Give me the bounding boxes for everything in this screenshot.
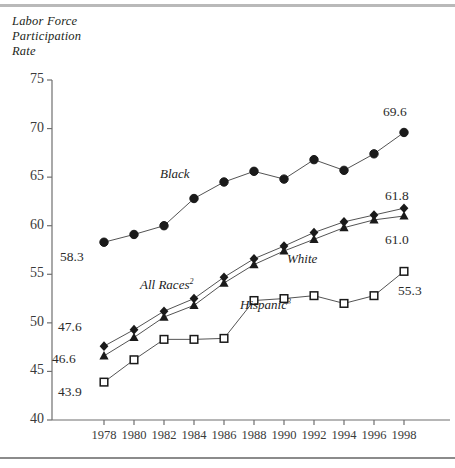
- data-point-marker: [130, 230, 138, 238]
- series-label-hispanic: Hispanic3: [240, 297, 291, 313]
- y-axis-tick-label: 75: [8, 71, 44, 87]
- data-point-marker: [160, 336, 168, 344]
- y-axis-tick-label: 70: [8, 120, 44, 136]
- y-axis-tick-label: 50: [8, 314, 44, 330]
- y-axis-tick-label: 65: [8, 168, 44, 184]
- data-point-marker: [340, 300, 348, 308]
- series-black: [100, 128, 408, 246]
- value-label-black-end: 69.6: [383, 104, 407, 120]
- value-label-hispanic-start: 43.9: [58, 384, 82, 400]
- data-point-marker: [370, 150, 378, 158]
- data-point-marker: [280, 175, 288, 183]
- data-point-marker: [400, 128, 408, 136]
- data-point-marker: [310, 155, 318, 163]
- y-axis-tick-label: 45: [8, 362, 44, 378]
- value-label-black-start: 58.3: [60, 249, 84, 265]
- value-label-white-start: 46.6: [52, 351, 76, 367]
- data-point-marker: [220, 335, 228, 343]
- series-label-all-races: All Races2: [140, 277, 193, 293]
- data-point-marker: [190, 336, 198, 344]
- x-axis-tick-label: 1998: [382, 428, 426, 443]
- data-point-marker: [399, 211, 408, 219]
- data-point-marker: [189, 301, 198, 309]
- data-point-marker: [340, 166, 348, 174]
- data-point-marker: [250, 167, 258, 175]
- data-point-marker: [190, 194, 198, 202]
- value-label-all-races-start: 47.6: [58, 319, 82, 335]
- data-point-marker: [100, 378, 108, 386]
- data-point-marker: [309, 235, 318, 243]
- chart-axes: [47, 80, 450, 425]
- data-point-marker: [100, 238, 108, 246]
- data-point-marker: [310, 292, 318, 300]
- data-point-marker: [100, 341, 109, 351]
- data-point-marker: [220, 178, 228, 186]
- data-point-marker: [130, 356, 138, 364]
- y-axis-tick-label: 55: [8, 265, 44, 281]
- value-label-white-end: 61.0: [385, 232, 409, 248]
- y-axis-tick-label: 40: [8, 411, 44, 427]
- series-label-black: Black: [160, 166, 190, 182]
- chart-series: [99, 128, 408, 386]
- value-label-hispanic-end: 55.3: [398, 283, 422, 299]
- data-point-marker: [400, 268, 408, 276]
- data-point-marker: [129, 333, 138, 341]
- series-label-white: White: [287, 251, 317, 267]
- y-axis-tick-label: 60: [8, 217, 44, 233]
- data-point-marker: [370, 292, 378, 300]
- data-point-marker: [99, 351, 108, 359]
- value-label-all-races-end: 61.8: [385, 188, 409, 204]
- data-point-marker: [160, 222, 168, 230]
- series-line: [104, 132, 404, 242]
